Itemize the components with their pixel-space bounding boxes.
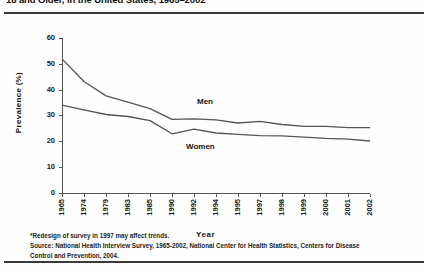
line-series-men (62, 59, 370, 128)
page-title: 18 and Older, in the United States, 1965… (6, 0, 205, 5)
bottom-divider (4, 261, 424, 263)
note-redesign: *Redesign of survey in 1997 may affect t… (30, 231, 370, 241)
note-source: Source: National Health Interview Survey… (30, 241, 370, 261)
plot-area: Prevalence (%) Year 0102030405060 196519… (0, 14, 428, 226)
figure-notes: *Redesign of survey in 1997 may affect t… (30, 231, 370, 260)
figure-container: 18 and Older, in the United States, 1965… (0, 0, 428, 269)
line-series-women (62, 105, 370, 141)
series-lines (0, 14, 428, 226)
figure-title-strip: 18 and Older, in the United States, 1965… (0, 0, 428, 11)
series-label-men: Men (196, 97, 214, 106)
series-label-women: Women (185, 142, 216, 151)
